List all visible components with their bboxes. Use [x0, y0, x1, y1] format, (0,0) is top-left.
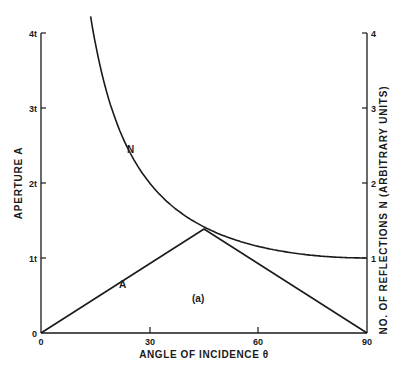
chart: 4t 3t 2t 1t 0 4 3 2 1 0 30 60 90 ANGLE O…	[0, 0, 402, 369]
series-a-line	[41, 229, 367, 333]
y2-tick-3: 3	[371, 104, 376, 114]
right-ticks	[362, 33, 367, 258]
annotation-a: (a)	[192, 293, 204, 304]
series-n-label: N	[127, 144, 134, 155]
y-axis-label: APERTURE A	[13, 147, 24, 220]
y2-tick-4: 4	[371, 29, 376, 39]
x-tick-90: 90	[362, 337, 372, 347]
left-ticks	[41, 33, 46, 258]
y2-tick-2: 2	[371, 179, 376, 189]
series-a-label: A	[119, 279, 126, 290]
y2-axis-label: NO. OF REFLECTIONS N (ARBITRARY UNITS)	[378, 86, 389, 335]
y-tick-3t: 3t	[29, 104, 37, 114]
x-tick-30: 30	[145, 337, 155, 347]
y-tick-1t: 1t	[29, 254, 37, 264]
x-tick-0: 0	[38, 337, 43, 347]
y-tick-4t: 4t	[29, 29, 37, 39]
x-axis-label: ANGLE OF INCIDENCE θ	[139, 349, 269, 360]
x-ticks	[150, 327, 258, 333]
series-n-line	[91, 16, 366, 258]
y-tick-2t: 2t	[29, 179, 37, 189]
x-tick-60: 60	[253, 337, 263, 347]
y-tick-0: 0	[32, 329, 37, 339]
y2-tick-1: 1	[371, 254, 376, 264]
